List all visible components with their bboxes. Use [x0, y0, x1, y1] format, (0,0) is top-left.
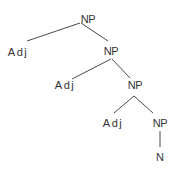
tree-edges	[0, 0, 174, 172]
edge-np1-np2	[81, 23, 108, 41]
node-adj-2: Adj	[55, 80, 75, 91]
node-np-4: NP	[153, 118, 167, 129]
node-adj-1: Adj	[8, 47, 28, 58]
edge-np2-adj2	[72, 59, 111, 79]
syntax-tree-diagram: NP Adj NP Adj NP Adj NP N	[0, 0, 174, 172]
edge-np3-np4	[134, 96, 153, 113]
edge-np3-adj3	[114, 96, 134, 113]
node-np-root: NP	[81, 14, 95, 25]
node-n: N	[156, 152, 164, 163]
edge-np2-np3	[112, 59, 130, 78]
node-np-3: NP	[128, 80, 142, 91]
node-np-2: NP	[104, 46, 118, 57]
node-adj-3: Adj	[103, 118, 123, 129]
edge-np1-adj1	[27, 23, 80, 41]
